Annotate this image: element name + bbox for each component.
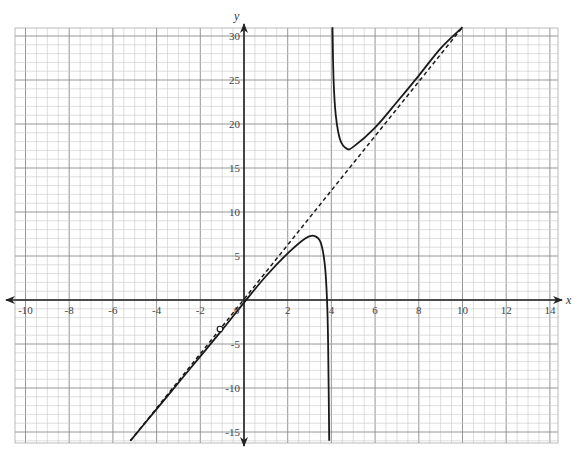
axes [6, 24, 562, 446]
x-tick-label: -2 [196, 304, 205, 316]
y-tick-label: -15 [225, 426, 240, 438]
y-tick-label: 5 [235, 250, 241, 262]
x-tick-label: 2 [285, 304, 291, 316]
x-tick-label: -10 [18, 304, 33, 316]
y-tick-label: 25 [229, 74, 241, 86]
x-tick-label: 8 [416, 304, 422, 316]
function-graph: -10-8-6-4-22468101214-15-10-551015202530… [0, 0, 578, 457]
function-curve [130, 236, 329, 441]
y-axis-label: y [233, 9, 240, 23]
tick-labels: -10-8-6-4-22468101214-15-10-551015202530 [18, 30, 556, 438]
y-tick-label: 30 [229, 30, 241, 42]
function-curve [332, 27, 462, 149]
x-tick-label: 6 [372, 304, 378, 316]
grid [15, 28, 558, 443]
x-tick-label: -4 [152, 304, 162, 316]
y-tick-label: 15 [229, 162, 241, 174]
x-tick-label: -8 [65, 304, 75, 316]
x-axis-label: x [565, 293, 572, 307]
y-tick-label: -5 [231, 338, 241, 350]
slant-asymptote [130, 27, 462, 441]
y-tick-label: 20 [229, 118, 241, 130]
x-tick-label: 10 [457, 304, 469, 316]
x-tick-label: 12 [501, 304, 512, 316]
y-tick-label: -10 [225, 382, 240, 394]
x-tick-label: 4 [329, 304, 335, 316]
x-tick-label: -6 [108, 304, 118, 316]
y-tick-label: 10 [229, 206, 241, 218]
hole-marker [217, 326, 223, 332]
origin-label: 0 [234, 304, 240, 316]
x-tick-label: 14 [544, 304, 556, 316]
curves [130, 27, 462, 441]
